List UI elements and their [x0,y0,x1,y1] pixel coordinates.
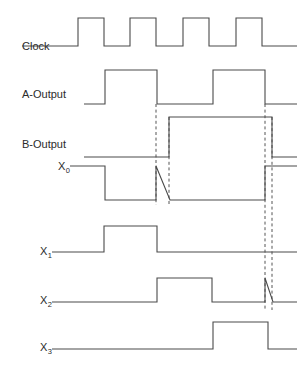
marker-lines-group [156,104,272,310]
label-b-output: B-Output [22,138,66,150]
waveform-x0 [70,166,297,200]
timing-diagram-canvas: ClockA-OutputB-OutputX0X1X2X3 [0,0,307,371]
label-x2-subscript: 2 [48,300,52,309]
label-a-output: A-Output [22,88,66,100]
waveform-clock [22,18,297,46]
label-x0-subscript: 0 [66,166,70,175]
label-x3: X3 [40,341,52,356]
waveforms-group [22,18,297,349]
label-x1-subscript: 1 [48,251,52,260]
label-clock: Clock [22,40,50,52]
label-x3-subscript: 3 [48,347,52,356]
label-x1: X1 [40,245,52,260]
waveform-x3 [52,322,297,349]
timing-diagram: ClockA-OutputB-OutputX0X1X2X3 [0,0,307,371]
label-x0: X0 [58,160,70,175]
signal-labels-group: ClockA-OutputB-OutputX0X1X2X3 [22,40,70,356]
waveform-x1 [52,226,297,252]
waveform-a-output [84,70,297,104]
waveform-x2 [52,278,297,302]
label-x2: X2 [40,294,52,309]
